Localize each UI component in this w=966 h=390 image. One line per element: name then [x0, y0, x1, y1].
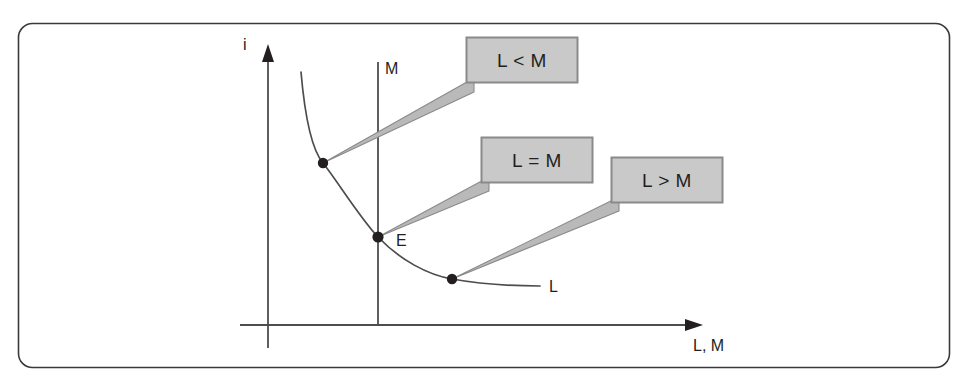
y-axis-label: i	[243, 36, 247, 53]
point-excess-supply	[447, 274, 457, 284]
callout-text-l-less-than-m: L < M	[497, 50, 547, 71]
callout-l-equals-m[interactable]: L = M	[482, 138, 593, 183]
diagram-canvas: i L, M M L L < M L = M L > M	[0, 0, 966, 390]
point-excess-demand	[318, 158, 328, 168]
callout-text-l-equals-m: L = M	[512, 150, 562, 171]
point-equilibrium	[372, 231, 383, 242]
figure-root: i L, M M L L < M L = M L > M	[0, 0, 966, 390]
callout-l-less-than-m[interactable]: L < M	[467, 38, 578, 83]
money-supply-label: M	[385, 60, 398, 77]
money-demand-label: L	[549, 278, 558, 295]
x-axis-label: L, M	[693, 337, 724, 354]
callout-l-greater-than-m[interactable]: L > M	[612, 158, 723, 203]
callout-text-l-greater-than-m: L > M	[642, 170, 692, 191]
point-equilibrium-label: E	[396, 232, 407, 249]
